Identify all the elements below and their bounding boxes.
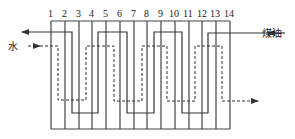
plate-number: 8	[144, 8, 149, 19]
plate-number: 2	[62, 8, 67, 19]
plate-number: 12	[197, 8, 207, 19]
plate-number: 6	[117, 8, 122, 19]
plate-number: 9	[158, 8, 163, 19]
plate-number: 4	[89, 8, 94, 19]
plate-number: 14	[224, 8, 234, 19]
plate-numbers: 1 2 3 4 5 6 7 8 9 10 11 12 13 14	[48, 8, 234, 19]
plate-number: 1	[48, 8, 53, 19]
plate-number: 13	[210, 8, 220, 19]
plate-number: 5	[103, 8, 108, 19]
plate-number: 11	[183, 8, 193, 19]
water-label: 水	[8, 41, 18, 52]
plate-number: 3	[76, 8, 81, 19]
heat-exchanger-diagram: 1 2 3 4 5 6 7 8 9 10 11 12 13 14 水 煤油	[0, 0, 295, 139]
plate-number: 10	[169, 8, 179, 19]
dashed-flow-path	[40, 46, 258, 101]
plate-number: 7	[131, 8, 136, 19]
kerosene-label: 煤油	[262, 27, 282, 39]
